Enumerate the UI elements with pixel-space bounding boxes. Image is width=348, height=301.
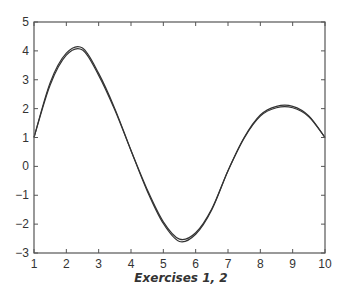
- series-line-2: [34, 49, 325, 240]
- x-tick-label: 10: [318, 257, 332, 270]
- line-chart: 12345678910 −3−2−1012345: [0, 0, 348, 270]
- y-tick-label: −3: [15, 246, 29, 260]
- x-tick-label: 6: [192, 257, 199, 270]
- y-tick-label: 0: [22, 159, 29, 173]
- series-line-1: [34, 47, 325, 242]
- x-axis: 12345678910: [31, 22, 332, 270]
- x-tick-label: 4: [128, 257, 135, 270]
- y-tick-label: −2: [15, 217, 29, 231]
- y-tick-label: 1: [22, 131, 29, 145]
- x-tick-label: 5: [160, 257, 167, 270]
- figure-caption: Exercises 1, 2: [0, 271, 348, 285]
- y-tick-label: 4: [22, 44, 29, 58]
- plot-area-frame: [34, 22, 325, 253]
- x-tick-label: 8: [257, 257, 264, 270]
- y-axis: −3−2−1012345: [15, 15, 325, 260]
- y-tick-label: 3: [22, 73, 29, 87]
- x-tick-label: 1: [31, 257, 38, 270]
- x-tick-label: 7: [225, 257, 232, 270]
- x-tick-label: 2: [63, 257, 70, 270]
- x-tick-label: 9: [289, 257, 296, 270]
- plot-curves: [34, 47, 325, 242]
- y-tick-label: 2: [22, 102, 29, 116]
- y-tick-label: 5: [22, 15, 29, 29]
- x-tick-label: 3: [95, 257, 102, 270]
- y-tick-label: −1: [15, 188, 29, 202]
